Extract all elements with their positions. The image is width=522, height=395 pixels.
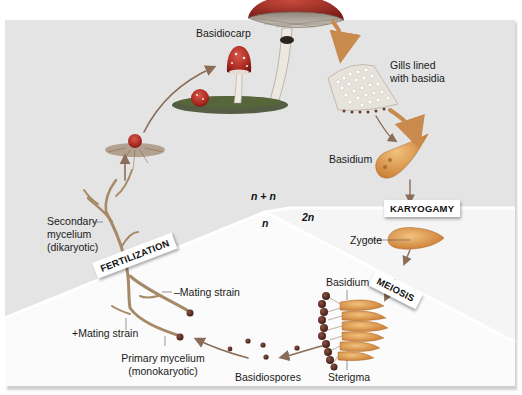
haploid-ploidy-label: n [262, 217, 268, 229]
basidium-label-top: Basidium [329, 153, 372, 166]
sterigma-label: Sterigma [328, 371, 370, 384]
dikaryotic-ploidy-label: n + n [251, 190, 276, 202]
primary-mycelium-label-line2: (monokaryotic) [120, 365, 206, 378]
basidium-label-bottom: Basidium [326, 276, 369, 289]
basidiospores-label: Basidiospores [235, 371, 301, 384]
plus-mating-strain-label: +Mating strain [72, 327, 138, 340]
basidiocarp-label: Basidiocarp [196, 27, 251, 40]
gills-label-line2: with basidia [390, 72, 445, 85]
diploid-ploidy-label: 2n [302, 211, 314, 223]
primary-mycelium-label-line1: Primary mycelium [120, 352, 206, 365]
karyogamy-stage-label: KARYOGAMY [384, 200, 460, 217]
minus-mating-strain-label: –Mating strain [174, 286, 240, 299]
gills-label-line1: Gills lined [390, 59, 436, 72]
secondary-mycelium-label-line3: (dikaryotic) [47, 241, 98, 254]
zygote-label: Zygote [350, 234, 382, 247]
secondary-mycelium-label-line2: mycelium [47, 228, 91, 241]
secondary-mycelium-label-line1: Secondary [47, 215, 97, 228]
life-cycle-diagram: n + n n 2n KARYOGAMY FERTILIZATION MEIOS… [0, 0, 522, 395]
